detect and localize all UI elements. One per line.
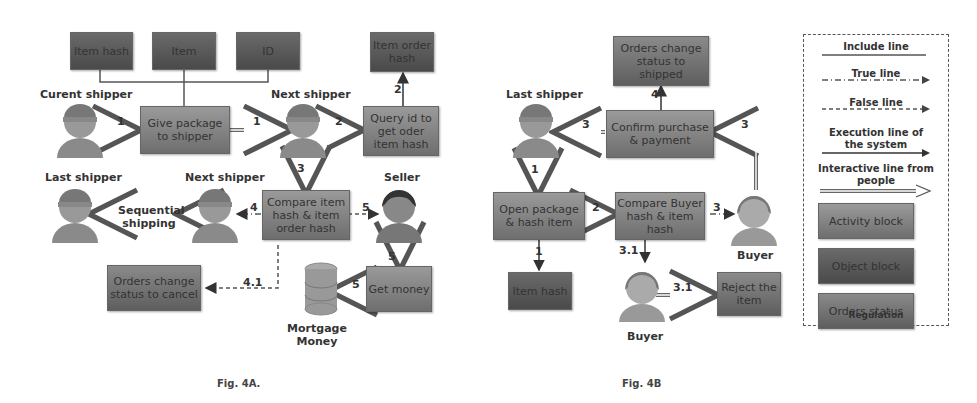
legend-title: Regulation bbox=[804, 309, 948, 321]
edge-label: 3.1 bbox=[673, 281, 693, 294]
status-shipped: Orders change status to shipped bbox=[613, 36, 709, 86]
buyer-icon bbox=[617, 264, 673, 322]
object-item: Item bbox=[152, 32, 216, 70]
shipper-icon bbox=[192, 185, 248, 243]
activity-get-money: Get money bbox=[366, 266, 432, 312]
edge-label: 3.1 bbox=[619, 244, 639, 257]
label-buyer: Buyer bbox=[627, 330, 663, 343]
label-last-shipper: Last shipper bbox=[506, 88, 583, 101]
database-icon bbox=[303, 262, 339, 316]
activity-confirm-purchase: Confirm purchase & payment bbox=[606, 110, 714, 158]
edge-label: 2 bbox=[335, 115, 343, 128]
edge-label: 1 bbox=[535, 245, 543, 258]
caption-fig-4b: Fig. 4B bbox=[622, 378, 661, 389]
edge-label: 3 bbox=[582, 118, 590, 131]
object-item-hash: Item hash bbox=[508, 272, 572, 310]
edge-label: 4.1 bbox=[243, 276, 263, 289]
edge-label: 2 bbox=[394, 83, 402, 96]
edge-label: 2 bbox=[592, 201, 600, 214]
legend-activity-block: Activity block bbox=[818, 203, 914, 239]
edge-label: 1 bbox=[253, 115, 261, 128]
shipper-icon bbox=[280, 100, 336, 158]
activity-compare-buyer-hash: Compare Buyer hash & item hash bbox=[615, 192, 705, 240]
activity-open-package: Open package & hash item bbox=[493, 192, 585, 240]
activity-query-id: Query id to get oder item hash bbox=[363, 106, 439, 156]
label-seller: Seller bbox=[384, 171, 420, 184]
label-mortgage-money: Mortgage Money bbox=[287, 322, 347, 348]
edge-label: 5 bbox=[362, 201, 370, 214]
edge-label: 3 bbox=[741, 118, 749, 131]
shipper-icon bbox=[57, 100, 113, 158]
object-item-hash: Item hash bbox=[70, 32, 133, 70]
edge-label: 5 bbox=[388, 250, 396, 263]
object-id: ID bbox=[236, 32, 300, 70]
edge-label: 4 bbox=[250, 201, 258, 214]
label-next-shipper: Next shipper bbox=[185, 171, 265, 184]
edge-label: 5 bbox=[352, 278, 360, 291]
legend-regulation: Include line True line False line Execut… bbox=[803, 34, 949, 326]
legend-object-block: Object block bbox=[818, 248, 914, 284]
status-cancel: Orders change status to cancel bbox=[107, 265, 201, 311]
activity-compare-item-hash: Compare item hash & item order hash bbox=[262, 190, 350, 240]
label-last-shipper: Last shipper bbox=[45, 171, 122, 184]
shipper-icon bbox=[52, 185, 108, 243]
label-next-shipper: Next shipper bbox=[271, 88, 351, 101]
edge-label: 1 bbox=[117, 115, 125, 128]
edge-label: 1 bbox=[531, 163, 539, 176]
caption-fig-4a: Fig. 4A. bbox=[217, 378, 260, 389]
note-sequential-shipping: Sequential shipping bbox=[118, 204, 180, 230]
label-buyer: Buyer bbox=[737, 249, 773, 262]
edge-label: 4 bbox=[651, 88, 659, 101]
buyer-icon bbox=[729, 188, 785, 246]
shipper-icon bbox=[513, 100, 569, 158]
object-item-order-hash: Item order hash bbox=[370, 32, 434, 72]
legend-include-line: Include line bbox=[804, 41, 948, 53]
activity-reject-item: Reject the item bbox=[717, 272, 781, 316]
edge-label: 3 bbox=[713, 201, 721, 214]
seller-icon bbox=[374, 185, 430, 243]
label-current-shipper: Curent shipper bbox=[40, 88, 133, 101]
edge-label: 3 bbox=[297, 162, 305, 175]
activity-give-package: Give package to shipper bbox=[140, 106, 230, 154]
